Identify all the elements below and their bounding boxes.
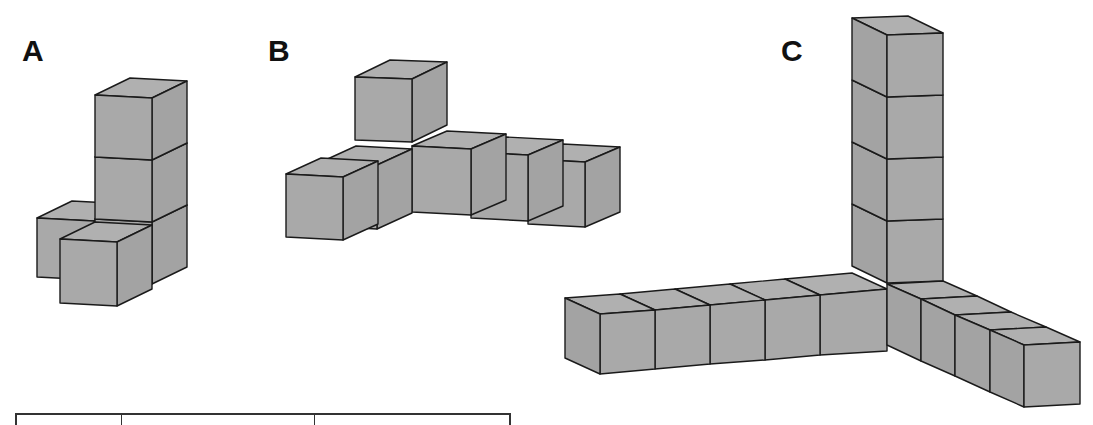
cube-front-face xyxy=(1024,342,1080,407)
cube-front-face xyxy=(887,33,943,97)
cube-front-face xyxy=(95,157,152,222)
figure-c-cubes xyxy=(565,16,1080,407)
cube-front-face xyxy=(355,77,412,142)
cube-front-face xyxy=(820,289,887,355)
cube-side-face xyxy=(585,147,620,227)
cube-front-face xyxy=(887,95,943,159)
table-cell-2 xyxy=(122,415,315,425)
cube-front-face xyxy=(60,239,117,306)
cube-front-face xyxy=(600,310,655,374)
table-cell-3 xyxy=(315,415,509,425)
cube-front-face xyxy=(95,95,152,160)
figure-b-cubes xyxy=(286,60,620,240)
cube-front-face xyxy=(887,219,943,283)
figure-a-cubes xyxy=(37,78,187,306)
cube-front-face xyxy=(655,305,710,369)
figure-label-a: A xyxy=(22,36,44,66)
table-cell-1 xyxy=(17,415,122,425)
cube-side-face xyxy=(528,140,563,221)
cube-side-face xyxy=(471,134,506,215)
cube-front-face xyxy=(765,295,820,360)
cube-front-face xyxy=(887,157,943,221)
cube-front-face xyxy=(710,300,765,364)
figure-label-c: C xyxy=(781,36,803,66)
cube-front-face xyxy=(286,174,343,240)
cube-front-face xyxy=(412,146,471,215)
answer-table-header xyxy=(15,413,511,425)
figure-label-b: B xyxy=(268,36,290,66)
